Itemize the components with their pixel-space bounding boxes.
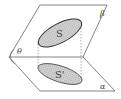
label-theta: θ [17, 47, 22, 56]
dihedral-diagram: S S' β α θ [0, 0, 121, 99]
label-beta: β [99, 9, 105, 18]
label-alpha: α [100, 82, 106, 91]
label-s: S [56, 28, 63, 39]
label-s-prime: S' [55, 69, 65, 80]
